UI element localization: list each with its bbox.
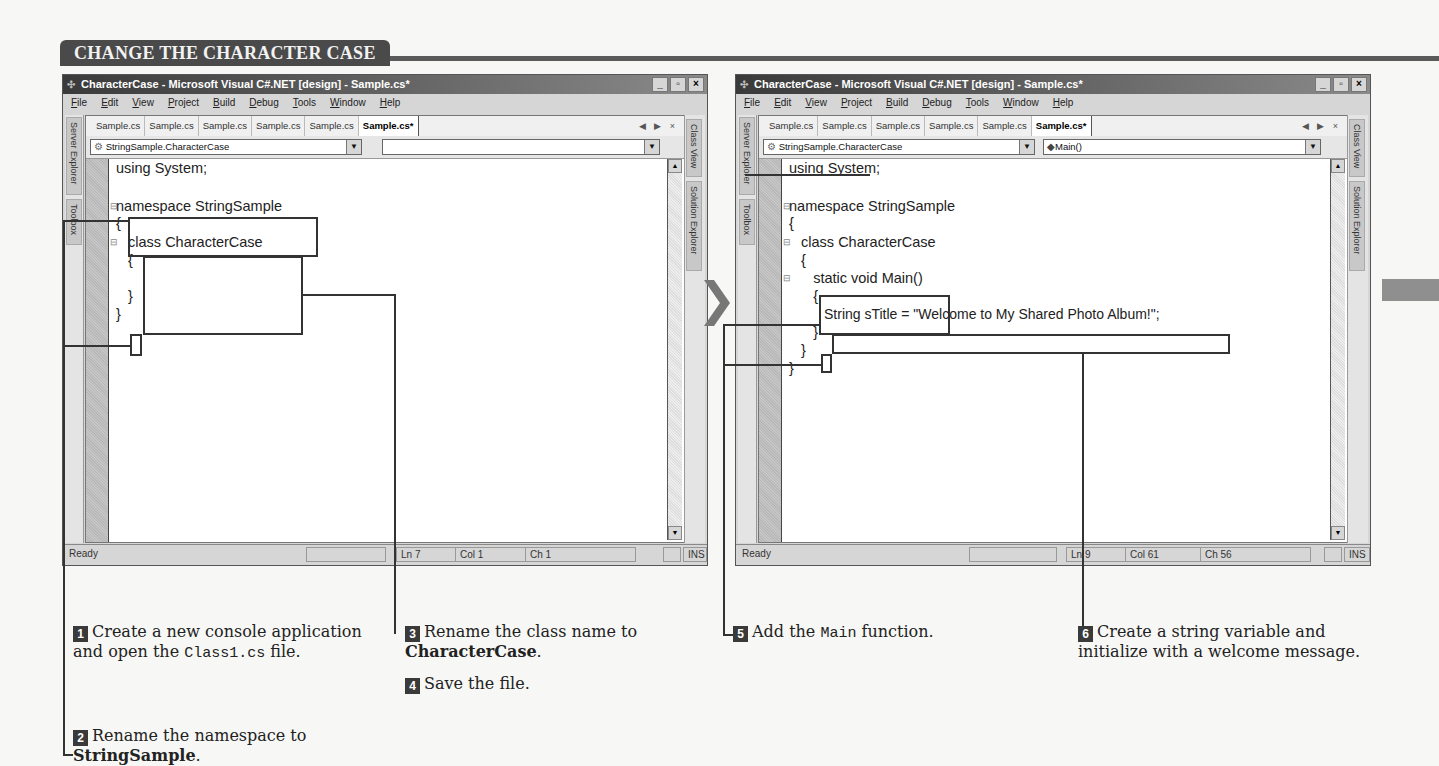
menu-view[interactable]: View bbox=[805, 94, 827, 112]
menu-debug[interactable]: Debug bbox=[249, 94, 278, 112]
menu-debug[interactable]: Debug bbox=[922, 94, 951, 112]
app-icon: ✣ bbox=[67, 75, 81, 94]
connector-line bbox=[1082, 354, 1084, 626]
tab-sample-4[interactable]: Sample.cs bbox=[252, 116, 305, 136]
step-text: Create a string variable and initialize … bbox=[1078, 622, 1360, 661]
class-icon: ⚙ bbox=[767, 141, 779, 152]
vertical-scrollbar[interactable]: ▲ ▼ bbox=[667, 159, 682, 540]
server-explorer-tab[interactable]: Server Explorer bbox=[739, 117, 755, 195]
menu-tools[interactable]: Tools bbox=[966, 94, 989, 112]
callout-namespace-box bbox=[128, 217, 318, 257]
status-panel-empty bbox=[1324, 547, 1342, 562]
tab-sample-2[interactable]: Sample.cs bbox=[145, 116, 198, 136]
step-number: 6 bbox=[1078, 626, 1093, 642]
menu-build[interactable]: Build bbox=[886, 94, 908, 112]
status-panel-empty bbox=[306, 547, 386, 562]
chevron-down-icon[interactable]: ▼ bbox=[1305, 140, 1320, 154]
menu-edit[interactable]: Edit bbox=[774, 94, 791, 112]
code-line: class CharacterCase bbox=[789, 233, 936, 251]
tab-sample-3[interactable]: Sample.cs bbox=[872, 116, 925, 136]
solution-explorer-tab[interactable]: Solution Explorer bbox=[1349, 181, 1365, 271]
chevron-down-icon[interactable]: ▼ bbox=[644, 140, 659, 154]
minimize-button[interactable]: _ bbox=[652, 77, 668, 92]
title-bar: ✣CharacterCase - Microsoft Visual C#.NET… bbox=[63, 75, 707, 94]
close-button[interactable]: × bbox=[688, 77, 704, 92]
code-line: { bbox=[789, 251, 806, 269]
tab-sample-3[interactable]: Sample.cs bbox=[199, 116, 252, 136]
left-tool-strip: Server Explorer Toolbox bbox=[738, 115, 757, 543]
step-text: . bbox=[196, 746, 201, 765]
code-line: static void Main() bbox=[789, 269, 923, 287]
step-code: Class1.cs bbox=[184, 645, 265, 662]
scroll-up-icon[interactable]: ▲ bbox=[1331, 159, 1345, 173]
menu-project[interactable]: Project bbox=[841, 94, 872, 112]
scroll-down-icon[interactable]: ▼ bbox=[1331, 526, 1345, 540]
class-view-tab[interactable]: Class View bbox=[1349, 119, 1365, 177]
menu-window[interactable]: Window bbox=[1003, 94, 1039, 112]
app-icon: ✣ bbox=[740, 75, 754, 94]
menu-file[interactable]: File bbox=[744, 94, 760, 112]
step-2: 2Rename the namespace to StringSample. bbox=[73, 726, 373, 766]
status-mode: INS bbox=[1344, 547, 1370, 562]
step-text: function. bbox=[856, 622, 933, 641]
server-explorer-tab[interactable]: Server Explorer bbox=[66, 117, 82, 195]
menu-file[interactable]: File bbox=[71, 94, 87, 112]
tab-sample-1[interactable]: Sample.cs bbox=[765, 116, 818, 136]
chevron-down-icon[interactable]: ▼ bbox=[346, 140, 361, 154]
connector-line bbox=[63, 220, 129, 222]
connector-line bbox=[302, 294, 396, 296]
scroll-up-icon[interactable]: ▲ bbox=[668, 159, 682, 173]
tab-scroll-close-icons[interactable]: ◀ ▶ × bbox=[1302, 116, 1341, 136]
tab-sample-1[interactable]: Sample.cs bbox=[92, 116, 145, 136]
tab-sample-5[interactable]: Sample.cs bbox=[978, 116, 1031, 136]
close-button[interactable]: × bbox=[1351, 77, 1367, 92]
restore-button[interactable]: ▫ bbox=[1333, 77, 1349, 92]
minimize-button[interactable]: _ bbox=[1315, 77, 1331, 92]
tab-sample-2[interactable]: Sample.cs bbox=[818, 116, 871, 136]
connector-line bbox=[394, 294, 396, 634]
menu-help[interactable]: Help bbox=[380, 94, 401, 112]
class-combo[interactable]: ⚙ StringSample.CharacterCase ▼ bbox=[90, 139, 362, 155]
scroll-down-icon[interactable]: ▼ bbox=[668, 526, 682, 540]
menu-build[interactable]: Build bbox=[213, 94, 235, 112]
step-code: Main bbox=[820, 625, 856, 642]
tab-sample-active[interactable]: Sample.cs* bbox=[1032, 116, 1092, 136]
chevron-down-icon[interactable]: ▼ bbox=[1019, 140, 1034, 154]
class-combo[interactable]: ⚙ StringSample.CharacterCase ▼ bbox=[763, 139, 1035, 155]
vertical-scrollbar[interactable]: ▲ ▼ bbox=[1330, 159, 1345, 540]
status-col: Col 1 bbox=[456, 547, 526, 562]
step-text: Add the bbox=[752, 622, 820, 641]
status-line: Ln 7 bbox=[396, 547, 456, 562]
menu-view[interactable]: View bbox=[132, 94, 154, 112]
status-text: Ready bbox=[738, 547, 968, 562]
class-view-tab[interactable]: Class View bbox=[686, 119, 702, 177]
section-title: CHANGE THE CHARACTER CASE bbox=[60, 40, 390, 66]
step-bold: CharacterCase bbox=[405, 642, 537, 661]
tab-sample-active[interactable]: Sample.cs* bbox=[359, 116, 419, 136]
tab-scroll-close-icons[interactable]: ◀ ▶ × bbox=[639, 116, 678, 136]
toolbox-tab[interactable]: Toolbox bbox=[66, 199, 82, 245]
step-3: 3Rename the class name to CharacterCase. bbox=[405, 622, 705, 662]
code-line: } bbox=[789, 341, 806, 359]
connector-line bbox=[723, 364, 822, 366]
member-combo[interactable]: ▼ bbox=[382, 139, 660, 155]
member-combo[interactable]: ◆Main() ▼ bbox=[1043, 139, 1321, 155]
menu-edit[interactable]: Edit bbox=[101, 94, 118, 112]
step-text: Rename the class name to bbox=[424, 622, 637, 641]
tab-sample-4[interactable]: Sample.cs bbox=[925, 116, 978, 136]
menu-window[interactable]: Window bbox=[330, 94, 366, 112]
code-line: } bbox=[789, 359, 794, 377]
solution-explorer-tab[interactable]: Solution Explorer bbox=[686, 181, 702, 271]
class-combo-value: StringSample.CharacterCase bbox=[779, 141, 903, 152]
tab-sample-5[interactable]: Sample.cs bbox=[305, 116, 358, 136]
toolbox-tab[interactable]: Toolbox bbox=[739, 199, 755, 245]
chevron-right-icon bbox=[704, 280, 730, 326]
menu-help[interactable]: Help bbox=[1053, 94, 1074, 112]
document-tabs: Sample.cs Sample.cs Sample.cs Sample.cs … bbox=[86, 116, 684, 137]
menu-project[interactable]: Project bbox=[168, 94, 199, 112]
step-number: 3 bbox=[405, 626, 420, 642]
callout-main-box bbox=[819, 295, 950, 335]
restore-button[interactable]: ▫ bbox=[670, 77, 686, 92]
menu-tools[interactable]: Tools bbox=[293, 94, 316, 112]
member-combo-value: Main() bbox=[1055, 141, 1082, 152]
